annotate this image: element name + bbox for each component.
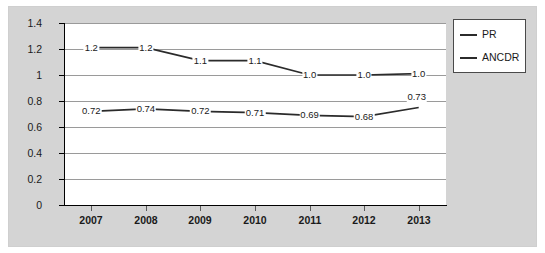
x-tick-label: 2011 xyxy=(285,214,335,226)
x-tick-mark xyxy=(255,206,256,211)
legend: PR ANCDR xyxy=(453,19,526,73)
x-tick-mark xyxy=(419,206,420,211)
y-tick-mark xyxy=(59,49,65,50)
data-label-ancdr-2007: 0.72 xyxy=(81,106,102,116)
y-tick-mark xyxy=(59,127,65,128)
data-label-pr-2012: 1.0 xyxy=(356,70,371,80)
x-tick-label: 2007 xyxy=(66,214,116,226)
legend-label-pr: PR xyxy=(482,28,497,40)
data-label-ancdr-2011: 0.69 xyxy=(299,110,320,120)
x-tick-mark xyxy=(200,206,201,211)
chart-frame: 1.21.21.11.11.01.01.00.720.740.720.710.6… xyxy=(8,6,537,247)
x-tick-mark xyxy=(310,206,311,211)
x-tick-label: 2009 xyxy=(175,214,225,226)
legend-line-icon-pr xyxy=(460,34,477,36)
data-label-ancdr-2010: 0.71 xyxy=(245,108,266,118)
data-label-ancdr-2008: 0.74 xyxy=(136,104,157,114)
data-label-pr-2011: 1.0 xyxy=(302,70,317,80)
data-label-ancdr-2013: 0.73 xyxy=(406,92,427,102)
y-tick-mark xyxy=(59,205,65,206)
y-tick-label: 0.2 xyxy=(2,174,42,184)
x-tick-mark xyxy=(146,206,147,211)
y-tick-mark xyxy=(59,75,65,76)
y-tick-mark xyxy=(59,101,65,102)
data-label-ancdr-2012: 0.68 xyxy=(354,112,375,122)
y-tick-mark xyxy=(59,153,65,154)
y-tick-mark xyxy=(59,179,65,180)
y-tick-label: 0.6 xyxy=(2,122,42,132)
x-tick-mark xyxy=(364,206,365,211)
x-tick-mark xyxy=(91,206,92,211)
y-tick-label: 1 xyxy=(2,70,42,80)
data-label-pr-2010: 1.1 xyxy=(247,56,262,66)
y-tick-label: 1.2 xyxy=(2,44,42,54)
data-label-pr-2007: 1.2 xyxy=(84,43,99,53)
y-tick-label: 0 xyxy=(2,200,42,210)
legend-line-icon-ancdr xyxy=(460,57,477,59)
x-tick-label: 2010 xyxy=(230,214,280,226)
y-tick-label: 1.4 xyxy=(2,18,42,28)
x-tick-label: 2012 xyxy=(339,214,389,226)
plot-area: 1.21.21.11.11.01.01.00.720.740.720.710.6… xyxy=(64,23,446,205)
data-label-pr-2013: 1.0 xyxy=(411,69,426,79)
y-tick-mark xyxy=(59,23,65,24)
data-label-pr-2008: 1.2 xyxy=(138,43,153,53)
x-tick-label: 2013 xyxy=(394,214,444,226)
y-tick-label: 0.4 xyxy=(2,148,42,158)
x-tick-label: 2008 xyxy=(121,214,171,226)
data-label-ancdr-2009: 0.72 xyxy=(190,106,211,116)
legend-label-ancdr: ANCDR xyxy=(482,51,519,63)
data-label-pr-2009: 1.1 xyxy=(193,56,208,66)
y-tick-label: 0.8 xyxy=(2,96,42,106)
